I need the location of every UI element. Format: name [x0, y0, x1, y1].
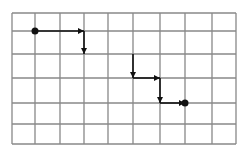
end-dot-icon	[182, 100, 189, 107]
arrowhead-icon	[130, 72, 136, 78]
arrowhead-icon	[78, 28, 84, 34]
path	[32, 28, 189, 107]
start-dot-icon	[32, 28, 39, 35]
arrowhead-icon	[81, 48, 87, 54]
arrowhead-icon	[154, 75, 160, 81]
arrowhead-icon	[157, 97, 163, 103]
grid-path-diagram	[0, 0, 245, 153]
grid	[12, 13, 236, 144]
